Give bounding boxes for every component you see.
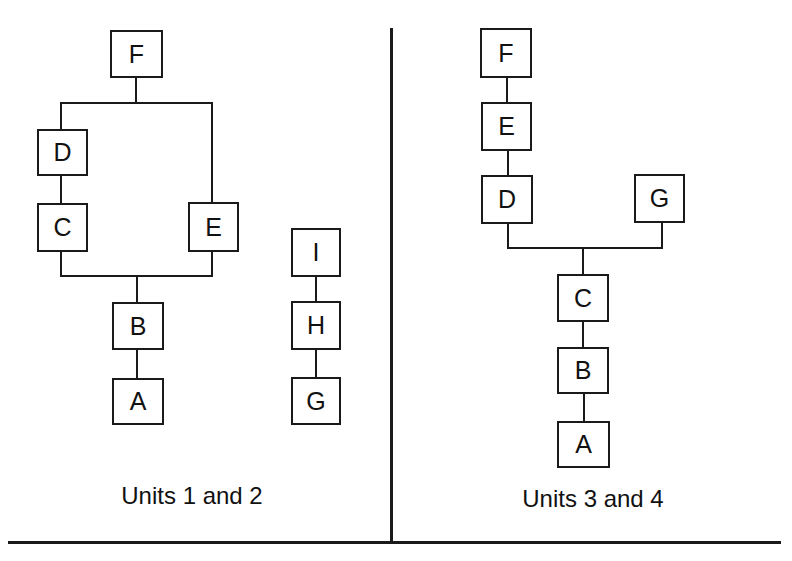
caption-units-1-2: Units 1 and 2: [121, 482, 262, 510]
node-g: G: [634, 174, 685, 223]
node-e: E: [188, 202, 239, 252]
node-i: I: [291, 228, 341, 277]
connector-g-down: [661, 223, 663, 249]
node-a: A: [112, 378, 164, 425]
node-d: D: [37, 129, 88, 176]
connector-c-b: [582, 322, 584, 347]
connector-top-bar: [60, 102, 213, 104]
connector-join-bar: [507, 247, 663, 249]
node-f: F: [480, 28, 532, 78]
connector-b-a: [136, 350, 138, 378]
connector-h-g: [315, 350, 317, 377]
connector-d-c: [60, 176, 62, 203]
connector-c-down: [60, 252, 62, 277]
node-c: C: [37, 203, 88, 252]
connector-f-stem: [135, 78, 137, 103]
connector-to-b: [136, 275, 138, 302]
connector-e-down: [211, 252, 213, 277]
vertical-divider: [390, 28, 393, 544]
connector-to-e: [211, 102, 213, 202]
node-e: E: [481, 102, 532, 151]
node-b: B: [557, 347, 609, 394]
node-g: G: [291, 377, 341, 425]
caption-units-3-4: Units 3 and 4: [522, 485, 663, 513]
node-b: B: [112, 302, 164, 350]
connector-f-e: [506, 78, 508, 102]
connector-i-h: [315, 277, 317, 301]
connector-d-down: [507, 224, 509, 249]
connector-b-a: [583, 394, 585, 421]
node-h: H: [291, 301, 341, 350]
node-d: D: [481, 175, 533, 224]
connector-to-d: [60, 102, 62, 129]
node-f: F: [110, 30, 163, 78]
bottom-rule: [8, 541, 781, 544]
connector-e-d: [507, 151, 509, 175]
node-a: A: [557, 421, 610, 468]
node-c: C: [557, 274, 609, 322]
connector-to-c: [582, 247, 584, 274]
